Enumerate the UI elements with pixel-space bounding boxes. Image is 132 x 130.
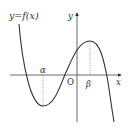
origin-label: O <box>67 77 74 87</box>
cubic-curve <box>19 24 114 122</box>
cubic-graph: y=f(x) y x O α β <box>0 0 132 130</box>
beta-label: β <box>85 79 91 89</box>
x-axis-label: x <box>116 77 121 87</box>
alpha-label: α <box>40 65 46 75</box>
y-axis-label: y <box>67 11 73 21</box>
function-label: y=f(x) <box>8 10 39 21</box>
